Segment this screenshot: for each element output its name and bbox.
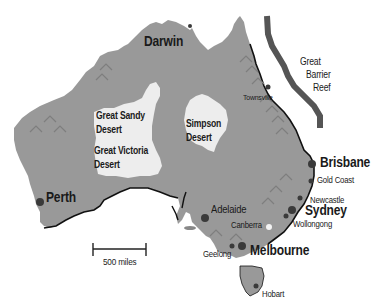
scale-bar-label: 500 miles (103, 257, 136, 267)
city-label-adelaide: Adelaide (211, 204, 246, 216)
city-label-hobart: Hobart (262, 290, 284, 299)
city-dot-hobart (254, 284, 259, 289)
city-dot-wollongong (284, 214, 289, 219)
city-dot-perth (36, 198, 44, 206)
desert-label-great-victoria-line1: Great Victoria (94, 145, 148, 156)
city-dot-gold-coast (309, 179, 314, 184)
city-label-gold-coast: Gold Coast (317, 176, 354, 185)
desert-label-great-sandy-line1: Great Sandy (96, 110, 145, 121)
tasmania (240, 266, 264, 296)
city-label-wollongong: Wollongong (293, 220, 332, 229)
city-label-perth: Perth (46, 190, 76, 205)
city-dot-townsville (266, 85, 271, 90)
city-label-geelong: Geelong (203, 250, 231, 259)
city-label-brisbane: Brisbane (320, 155, 370, 170)
city-dot-darwin (188, 24, 192, 28)
city-dot-adelaide (201, 214, 209, 222)
city-label-newcastle: Newcastle (310, 196, 344, 205)
reef-label-line2: Barrier (306, 70, 331, 81)
desert-label-simpson-line2: Desert (186, 132, 212, 143)
city-label-canberra: Canberra (231, 221, 262, 230)
reef-label-line1: Great (300, 57, 321, 68)
desert-label-great-victoria-line2: Desert (94, 159, 120, 170)
city-label-melbourne: Melbourne (250, 243, 309, 258)
reef-label-line3: Reef (313, 83, 330, 94)
mainland-landmass (14, 16, 314, 258)
city-dot-brisbane (308, 160, 316, 168)
city-label-townsville: Townsville (243, 94, 273, 102)
city-label-darwin: Darwin (144, 34, 183, 49)
scale-bar (93, 243, 146, 256)
capital-dot-canberra (266, 224, 272, 230)
city-dot-sydney (288, 206, 296, 214)
city-dot-newcastle (298, 196, 303, 201)
city-dot-melbourne (238, 242, 246, 250)
kangaroo-island (184, 226, 196, 230)
city-dot-geelong (230, 244, 235, 249)
desert-label-simpson-line1: Simpson (186, 118, 221, 129)
desert-label-great-sandy-line2: Desert (96, 124, 122, 135)
